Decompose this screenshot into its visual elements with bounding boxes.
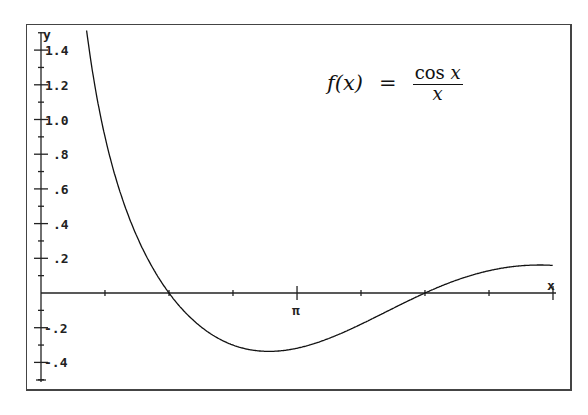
formula-fraction: cos x x [413, 62, 463, 103]
formula-denominator: x [433, 85, 443, 103]
y-tick-label: 1.0 [45, 114, 68, 127]
axes [41, 32, 556, 382]
x-axis-label: x [547, 279, 555, 292]
formula-numerator: cos x [413, 62, 463, 85]
pi-tick-label: π [292, 304, 300, 317]
y-tick-label: .6 [53, 183, 69, 196]
y-tick-label: .8 [53, 148, 69, 161]
formula: f(x) = cos x x [327, 62, 463, 103]
formula-equals: = [379, 71, 397, 95]
y-tick-label: -.4 [44, 356, 67, 369]
function-curve [87, 31, 553, 352]
y-tick-label: 1.2 [45, 79, 68, 92]
axis-ticks [34, 33, 553, 380]
y-tick-label: -.2 [44, 322, 67, 335]
y-tick-label: .2 [53, 252, 69, 265]
y-tick-label: 1.4 [45, 44, 68, 57]
numerator-fn: cos [415, 62, 445, 83]
y-tick-label: .4 [53, 218, 69, 231]
y-axis-label: y [43, 28, 51, 41]
plot-area [0, 0, 588, 415]
formula-lhs: f(x) [327, 71, 363, 95]
numerator-var: x [451, 62, 461, 83]
